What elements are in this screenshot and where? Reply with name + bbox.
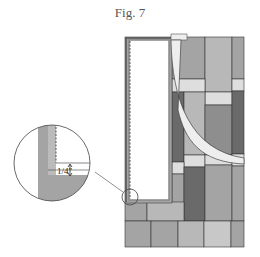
seam-allowance-label: 1/4"	[57, 166, 73, 176]
magnified-inset: 1/4"	[10, 120, 108, 210]
callout-line	[95, 172, 123, 192]
white-strip	[125, 37, 172, 203]
quilt-diagram: 1/4"	[0, 0, 260, 257]
